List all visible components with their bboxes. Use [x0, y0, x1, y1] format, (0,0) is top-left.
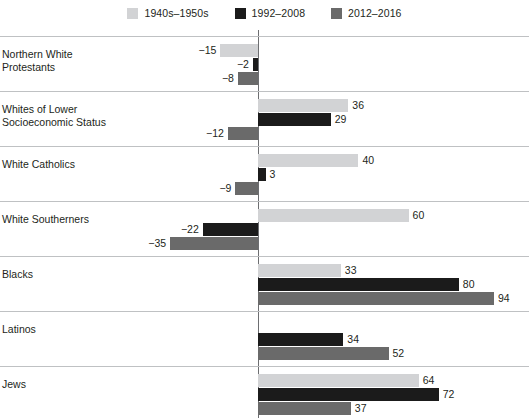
chart-group-row: Blacks338094	[0, 256, 529, 311]
legend-label: 1940s–1950s	[144, 7, 208, 19]
bar-track: 60	[0, 209, 529, 222]
bar	[258, 402, 351, 415]
group-bars: 3629−12	[0, 91, 529, 146]
bar-value-label: 72	[443, 388, 455, 401]
bar-value-label: 33	[345, 264, 357, 277]
plot-area: Northern White Protestants−15−2−8Whites …	[0, 26, 529, 418]
bar-track: −22	[0, 223, 529, 236]
bar	[258, 154, 358, 167]
bar-value-label: −22	[181, 223, 199, 236]
bar	[253, 58, 258, 71]
bar	[238, 72, 258, 85]
bar-track: 29	[0, 113, 529, 126]
bar-value-label: −9	[219, 182, 231, 195]
bar-track: −12	[0, 127, 529, 140]
bar-track: 36	[0, 99, 529, 112]
bar-track: 37	[0, 402, 529, 415]
bar-track: −2	[0, 58, 529, 71]
bar-value-label: 52	[393, 347, 405, 360]
legend-label: 1992–2008	[252, 7, 305, 19]
chart-group-row: Jews647237	[0, 366, 529, 418]
bar-value-label: −8	[222, 72, 234, 85]
bar	[258, 113, 331, 126]
bar-track: 94	[0, 292, 529, 305]
chart-legend: 1940s–1950s1992–20082012–2016	[0, 0, 529, 26]
chart-group-row: White Catholics403−9	[0, 146, 529, 201]
group-bars: −15−2−8	[0, 36, 529, 91]
bar	[258, 333, 343, 346]
bar-track: −15	[0, 44, 529, 57]
bar-track: 80	[0, 278, 529, 291]
legend-entry-s1940_1950: 1940s–1950s	[127, 7, 208, 19]
group-bars: 60−22−35	[0, 201, 529, 256]
bar-value-label: 36	[352, 99, 364, 112]
bar-track: 64	[0, 374, 529, 387]
bar-track: 40	[0, 154, 529, 167]
bar-value-label: 60	[413, 209, 425, 222]
bar-value-label: 80	[463, 278, 475, 291]
legend-entry-s1992_2008: 1992–2008	[235, 7, 305, 19]
bar-track: 72	[0, 388, 529, 401]
bar-track: −9	[0, 182, 529, 195]
bar	[258, 99, 348, 112]
group-bars: 338094	[0, 256, 529, 311]
bar-value-label: −12	[206, 127, 224, 140]
bar-track: 33	[0, 264, 529, 277]
group-bars: 403−9	[0, 146, 529, 201]
bar-value-label: 40	[362, 154, 374, 167]
bar	[258, 388, 439, 401]
bar	[258, 168, 266, 181]
bar-value-label: 29	[335, 113, 347, 126]
bar-track	[0, 319, 529, 332]
bar	[258, 374, 419, 387]
legend-swatch-icon	[235, 8, 246, 19]
bar-value-label: 34	[347, 333, 359, 346]
group-bars: 3452	[0, 311, 529, 366]
bar	[258, 347, 389, 360]
bar	[258, 264, 341, 277]
bar-value-label: −15	[199, 44, 217, 57]
bar-value-label: −35	[148, 237, 166, 250]
bar	[235, 182, 258, 195]
legend-entry-s2012_2016: 2012–2016	[331, 7, 401, 19]
bar	[258, 292, 494, 305]
legend-label: 2012–2016	[348, 7, 401, 19]
chart-group-row: Latinos3452	[0, 311, 529, 366]
bar-track: −8	[0, 72, 529, 85]
bar	[220, 44, 258, 57]
bar-track: 34	[0, 333, 529, 346]
chart-group-row: Northern White Protestants−15−2−8	[0, 36, 529, 91]
chart-group-row: Whites of Lower Socioeconomic Status3629…	[0, 91, 529, 146]
bar	[258, 278, 459, 291]
bar-chart: 1940s–1950s1992–20082012–2016 Northern W…	[0, 0, 529, 418]
bar-value-label: −2	[237, 58, 249, 71]
bar	[203, 223, 258, 236]
bar-track: 3	[0, 168, 529, 181]
chart-group-row: White Southerners60−22−35	[0, 201, 529, 256]
bar	[258, 209, 409, 222]
bar-track: −35	[0, 237, 529, 250]
bar	[170, 237, 258, 250]
bar-value-label: 3	[270, 168, 276, 181]
bar-value-label: 64	[423, 374, 435, 387]
bar-value-label: 94	[498, 292, 510, 305]
legend-swatch-icon	[127, 8, 138, 19]
group-bars: 647237	[0, 366, 529, 418]
bar-value-label: 37	[355, 402, 367, 415]
bar-track: 52	[0, 347, 529, 360]
legend-swatch-icon	[331, 8, 342, 19]
bar	[228, 127, 258, 140]
